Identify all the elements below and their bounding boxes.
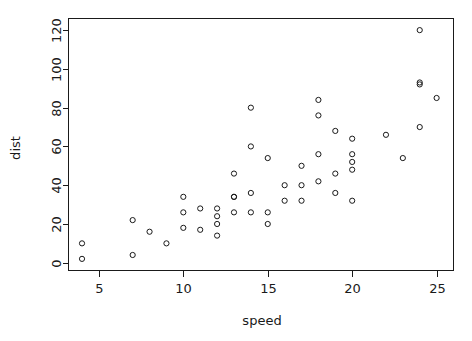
plot-frame bbox=[69, 19, 454, 271]
data-point bbox=[350, 198, 355, 203]
data-point bbox=[434, 95, 439, 100]
y-axis: 020406080100120 bbox=[49, 18, 68, 268]
data-point bbox=[130, 252, 135, 257]
data-point bbox=[79, 256, 84, 261]
y-tick-label: 20 bbox=[49, 216, 64, 233]
data-point bbox=[181, 225, 186, 230]
data-point bbox=[350, 159, 355, 164]
x-axis-title: speed bbox=[242, 313, 281, 328]
x-axis: 510152025 bbox=[95, 271, 445, 296]
data-point bbox=[265, 210, 270, 215]
data-point bbox=[333, 190, 338, 195]
data-point bbox=[282, 183, 287, 188]
data-point bbox=[333, 128, 338, 133]
data-point bbox=[417, 124, 422, 129]
y-tick-label: 120 bbox=[49, 18, 64, 43]
data-point bbox=[215, 214, 220, 219]
data-point bbox=[231, 171, 236, 176]
x-tick-label: 25 bbox=[429, 281, 446, 296]
data-point bbox=[350, 167, 355, 172]
data-points-layer bbox=[79, 28, 439, 262]
y-tick-label: 40 bbox=[49, 177, 64, 194]
data-point bbox=[215, 221, 220, 226]
data-point bbox=[282, 198, 287, 203]
data-point bbox=[248, 105, 253, 110]
data-point bbox=[130, 218, 135, 223]
data-point bbox=[350, 152, 355, 157]
data-point bbox=[299, 163, 304, 168]
data-point bbox=[417, 28, 422, 33]
data-point bbox=[215, 233, 220, 238]
data-point bbox=[181, 194, 186, 199]
data-point bbox=[316, 97, 321, 102]
data-point bbox=[79, 241, 84, 246]
data-point bbox=[248, 190, 253, 195]
y-tick-label: 60 bbox=[49, 138, 64, 155]
scatter-plot-figure: 510152025 020406080100120 speed dist bbox=[0, 0, 472, 341]
data-point bbox=[350, 136, 355, 141]
data-point bbox=[181, 210, 186, 215]
plot-canvas: 510152025 020406080100120 speed dist bbox=[0, 0, 472, 341]
x-tick-label: 5 bbox=[95, 281, 103, 296]
x-tick-label: 20 bbox=[344, 281, 361, 296]
data-point bbox=[333, 171, 338, 176]
data-point bbox=[147, 229, 152, 234]
data-point bbox=[265, 221, 270, 226]
data-point bbox=[316, 113, 321, 118]
data-point bbox=[215, 206, 220, 211]
data-point bbox=[383, 132, 388, 137]
data-point bbox=[198, 206, 203, 211]
data-point bbox=[248, 210, 253, 215]
data-point bbox=[198, 227, 203, 232]
y-axis-title: dist bbox=[8, 136, 23, 160]
y-tick-label: 80 bbox=[49, 100, 64, 117]
data-point bbox=[316, 152, 321, 157]
x-tick-label: 10 bbox=[175, 281, 192, 296]
y-tick-label: 100 bbox=[49, 57, 64, 82]
data-point bbox=[299, 198, 304, 203]
data-point bbox=[265, 155, 270, 160]
data-point bbox=[164, 241, 169, 246]
data-point bbox=[400, 155, 405, 160]
data-point bbox=[231, 210, 236, 215]
y-tick-label: 0 bbox=[49, 259, 64, 267]
data-point bbox=[299, 183, 304, 188]
x-tick-label: 15 bbox=[260, 281, 277, 296]
data-point bbox=[231, 194, 236, 199]
data-point bbox=[248, 144, 253, 149]
data-point bbox=[316, 179, 321, 184]
